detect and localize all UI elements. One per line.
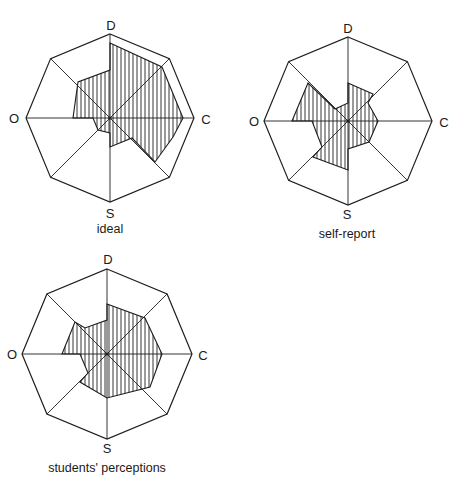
spoke-line: [51, 118, 110, 177]
axis-label-s: S: [106, 207, 115, 220]
axis-label-s: S: [343, 208, 352, 221]
axis-label-o: O: [7, 348, 17, 361]
center-point: [108, 116, 111, 119]
radar-diagrams-canvas: [0, 0, 455, 479]
radar-chart-students-perceptions: [22, 269, 192, 439]
radar-chart-self-report: [264, 37, 432, 205]
chart-caption-self-report: self-report: [319, 227, 375, 241]
axis-label-o: O: [9, 112, 19, 125]
center-point: [346, 119, 349, 122]
axis-label-c: C: [439, 116, 448, 129]
profile-area: [292, 83, 378, 170]
chart-caption-students-perceptions: students' perceptions: [48, 461, 166, 475]
axis-label-d: D: [343, 22, 352, 35]
spoke-line: [348, 121, 407, 180]
profile-area: [73, 43, 183, 162]
axis-label-d: D: [106, 19, 115, 32]
axis-label-d: D: [103, 253, 112, 266]
radar-chart-ideal: [26, 34, 194, 202]
axis-label-o: O: [249, 115, 259, 128]
chart-caption-ideal: ideal: [97, 222, 123, 236]
axis-label-c: C: [201, 113, 210, 126]
axis-label-s: S: [103, 442, 112, 455]
center-point: [105, 352, 108, 355]
axis-label-c: C: [198, 349, 207, 362]
